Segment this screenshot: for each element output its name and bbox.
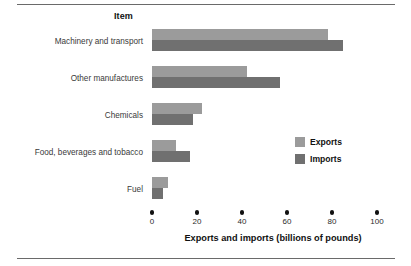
bar-imports-3 [152, 151, 190, 162]
chart-legend: ExportsImports [295, 135, 390, 169]
x-tick-label: 40 [238, 217, 247, 226]
bar-exports-1 [152, 66, 247, 77]
x-tick-dot [240, 210, 245, 215]
bar-exports-4 [152, 177, 168, 188]
bar-imports-2 [152, 114, 193, 125]
legend-item: Imports [295, 152, 390, 166]
bar-exports-3 [152, 140, 176, 151]
legend-item: Exports [295, 135, 390, 149]
bar-chart-figure: Item Machinery and transportOther manufa… [0, 0, 411, 266]
legend-swatch-exports [295, 137, 305, 147]
x-tick-label: 60 [283, 217, 292, 226]
x-tick-label: 100 [370, 217, 383, 226]
category-label: Chemicals [0, 111, 148, 121]
x-tick-label: 0 [150, 217, 154, 226]
bar-exports-0 [152, 29, 328, 40]
bar-imports-4 [152, 188, 163, 199]
x-tick-dot [375, 210, 380, 215]
x-tick-dot [285, 210, 290, 215]
legend-label: Exports [310, 137, 342, 147]
bar-exports-2 [152, 103, 202, 114]
bar-imports-0 [152, 40, 343, 51]
plot-area [152, 25, 402, 210]
x-axis-title: Exports and imports (billions of pounds) [148, 233, 398, 243]
x-tick-dot [330, 210, 335, 215]
category-label: Other manufactures [0, 74, 148, 84]
category-label: Fuel [0, 185, 148, 195]
bar-imports-1 [152, 77, 280, 88]
category-label: Machinery and transport [0, 37, 148, 47]
legend-swatch-imports [295, 154, 305, 164]
x-tick-label: 80 [328, 217, 337, 226]
chart-title: Item [114, 11, 133, 21]
top-divider-rule [17, 4, 395, 5]
bottom-divider-rule [17, 258, 395, 259]
x-tick-dot [150, 210, 155, 215]
x-tick-dot [195, 210, 200, 215]
legend-label: Imports [310, 154, 342, 164]
x-tick-label: 20 [193, 217, 202, 226]
category-label: Food, beverages and tobacco [0, 148, 148, 158]
